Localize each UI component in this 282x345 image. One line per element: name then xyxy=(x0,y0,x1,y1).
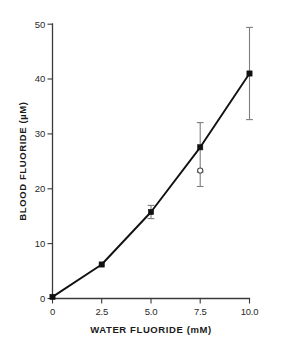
x-tick-label: 7.5 xyxy=(194,306,207,317)
y-tick-label: 50 xyxy=(35,19,45,30)
data-markers-main xyxy=(50,71,252,300)
error-bars-main xyxy=(148,27,253,218)
chart-figure: 0 10 20 30 40 50 0 2.5 5.0 7.5 10.0 WATE… xyxy=(0,0,282,345)
y-tick-label: 30 xyxy=(35,128,45,139)
y-tick-label: 10 xyxy=(35,238,45,249)
data-point xyxy=(50,294,55,299)
data-point xyxy=(247,71,252,76)
y-tick-label: 0 xyxy=(40,293,45,304)
data-line-main xyxy=(53,74,250,297)
x-axis-tick-labels: 0 2.5 5.0 7.5 10.0 xyxy=(50,306,258,317)
data-point-open xyxy=(198,168,203,173)
y-tick-label: 40 xyxy=(35,73,45,84)
data-point xyxy=(198,145,203,150)
y-axis-ticks xyxy=(48,24,53,298)
x-tick-label: 0 xyxy=(50,306,55,317)
y-axis-tick-labels: 0 10 20 30 40 50 xyxy=(35,19,45,304)
x-axis-title: WATER FLUORIDE (mM) xyxy=(90,324,212,335)
data-point xyxy=(148,209,153,214)
data-point xyxy=(99,262,104,267)
x-tick-label: 2.5 xyxy=(95,306,108,317)
x-tick-label: 10.0 xyxy=(241,306,259,317)
chart-svg: 0 10 20 30 40 50 0 2.5 5.0 7.5 10.0 WATE… xyxy=(0,0,282,345)
x-tick-label: 5.0 xyxy=(145,306,158,317)
y-tick-label: 20 xyxy=(35,183,45,194)
x-axis-ticks xyxy=(53,299,250,304)
y-axis-title: BLOOD FLUORIDE (µM) xyxy=(17,101,28,220)
